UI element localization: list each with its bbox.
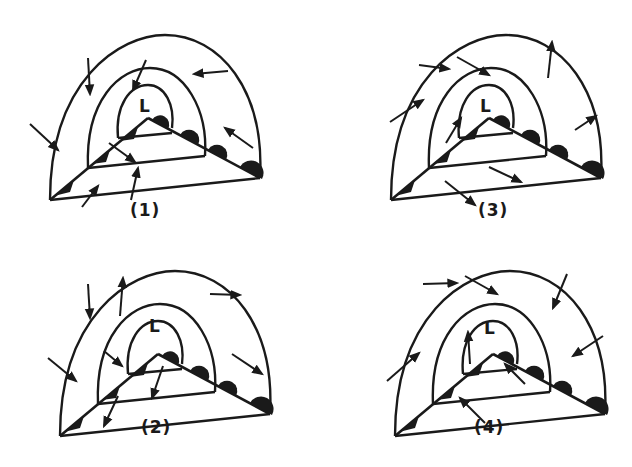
diagram-canvas [0,0,632,467]
panel-1 [30,35,264,207]
panel-3 [390,35,605,205]
wind-arrows-2 [48,278,262,426]
panel-label-2: (2) [141,417,171,437]
low-pressure-label-1: L [139,96,150,116]
panel-label-4: (4) [474,417,504,437]
low-pressure-label-3: L [480,96,491,116]
panel-2 [48,271,274,436]
low-pressure-label-2: L [149,316,160,336]
low-pressure-label-4: L [484,318,495,338]
panel-4 [387,271,609,436]
wind-arrows-1 [30,58,253,207]
wind-arrows-3 [390,42,596,205]
panel-label-3: (3) [478,200,508,220]
panel-label-1: (1) [130,200,160,220]
